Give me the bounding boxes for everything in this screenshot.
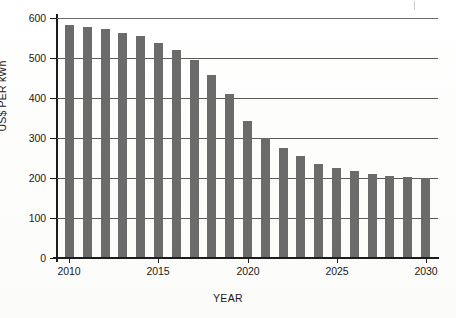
bar-2027 xyxy=(368,174,377,258)
bar-2021 xyxy=(261,138,270,258)
x-tick-label-2025: 2025 xyxy=(326,265,349,277)
y-tick-label-400: 400 xyxy=(0,93,46,104)
gridline-500 xyxy=(57,58,438,59)
bar-2025 xyxy=(332,168,341,258)
bar-2018 xyxy=(207,75,216,258)
x-tick-2015 xyxy=(158,257,159,263)
bar-2010 xyxy=(65,25,74,258)
y-tick-label-300: 300 xyxy=(0,133,46,144)
y-tick-label-600: 600 xyxy=(0,13,46,24)
bar-2029 xyxy=(403,177,412,258)
x-axis-title: YEAR xyxy=(0,292,456,304)
bar-2030 xyxy=(421,178,430,258)
scan-artifact-mark xyxy=(414,1,415,10)
y-tick-label-200: 200 xyxy=(0,173,46,184)
x-tick-label-2020: 2020 xyxy=(237,265,260,277)
bar-2023 xyxy=(296,156,305,258)
y-tick-label-500: 500 xyxy=(0,53,46,64)
x-tick-2030 xyxy=(426,257,427,263)
x-tick-label-2015: 2015 xyxy=(147,265,170,277)
bar-2020 xyxy=(243,121,252,258)
bar-2011 xyxy=(83,27,92,258)
bar-2028 xyxy=(385,176,394,258)
bar-2013 xyxy=(118,33,127,258)
x-tick-2010 xyxy=(69,257,70,263)
bar-2024 xyxy=(314,164,323,258)
y-tick-label-0: 0 xyxy=(0,253,46,264)
bar-2016 xyxy=(172,50,181,258)
bar-2026 xyxy=(350,171,359,258)
bar-2019 xyxy=(225,94,234,258)
x-tick-2025 xyxy=(337,257,338,263)
x-axis-line xyxy=(53,257,439,259)
y-tick-label-100: 100 xyxy=(0,213,46,224)
gridline-600 xyxy=(57,18,438,19)
bar-2015 xyxy=(154,43,163,258)
bar-chart-figure: US$ PER kWh 6005004003002001000 20102015… xyxy=(0,0,456,318)
bar-2014 xyxy=(136,36,145,258)
bar-2017 xyxy=(190,60,199,258)
plot-area xyxy=(57,18,438,258)
x-tick-2020 xyxy=(248,257,249,263)
gridline-400 xyxy=(57,98,438,99)
x-tick-label-2030: 2030 xyxy=(415,265,438,277)
bar-2012 xyxy=(101,29,110,258)
x-tick-label-2010: 2010 xyxy=(58,265,81,277)
bar-2022 xyxy=(279,148,288,258)
